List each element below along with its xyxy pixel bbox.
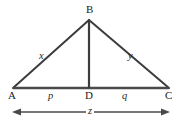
segment-label-y: y xyxy=(128,51,133,62)
vertex-label-b: B xyxy=(86,4,93,15)
dimension-arrow-head-left xyxy=(12,109,21,116)
segment-label-p: p xyxy=(48,91,53,102)
triangle-diagram-svg xyxy=(0,0,185,123)
segment-ab-line xyxy=(13,20,89,88)
segment-label-x: x xyxy=(39,51,44,62)
vertex-label-c: C xyxy=(165,90,172,101)
segment-label-q: q xyxy=(122,91,127,102)
dimension-label-z: z xyxy=(86,106,94,117)
geometry-figure: B A D C x y p q z xyxy=(0,0,185,123)
vertex-label-a: A xyxy=(8,90,16,101)
dimension-arrow-head-right xyxy=(161,109,170,116)
vertex-label-d: D xyxy=(85,90,93,101)
